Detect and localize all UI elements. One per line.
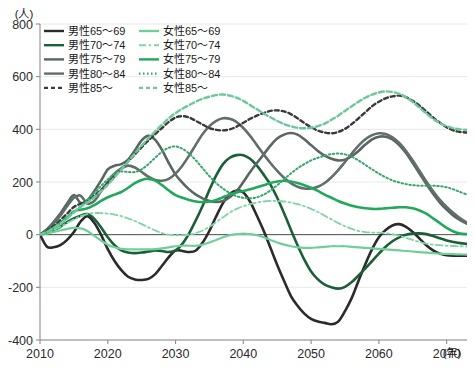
legend-label: 女性85〜 — [163, 81, 208, 94]
y-tick-label: -400 — [8, 334, 33, 348]
legend-label: 男性85〜 — [68, 81, 113, 94]
y-tick-label: 600 — [12, 70, 33, 84]
x-tick-label: 2020 — [94, 347, 122, 361]
y-tick-label: -200 — [8, 281, 33, 295]
x-axis-unit-label: (年) — [443, 346, 462, 359]
line-chart: -400-2000200400600800 201020202030204020… — [0, 0, 475, 371]
x-tick-label: 2050 — [297, 347, 325, 361]
legend-label: 女性75〜79 — [163, 52, 220, 65]
x-tick-label: 2040 — [229, 347, 257, 361]
x-tick-label: 2030 — [162, 347, 190, 361]
legend-label: 男性65〜69 — [68, 24, 125, 37]
legend-label: 女性80〜84 — [163, 67, 220, 80]
chart-canvas: -400-2000200400600800 201020202030204020… — [0, 0, 475, 371]
legend-label: 女性70〜74 — [163, 38, 220, 51]
legend-label: 男性75〜79 — [68, 52, 125, 65]
legend-label: 女性65〜69 — [163, 24, 220, 37]
y-axis-unit-label: (人) — [15, 8, 34, 20]
legend-label: 男性80〜84 — [68, 67, 125, 80]
y-tick-label: 200 — [12, 176, 33, 190]
legend-label: 男性70〜74 — [68, 38, 125, 51]
x-tick-label: 2060 — [365, 347, 393, 361]
x-tick-label: 2010 — [26, 347, 54, 361]
y-tick-label: 0 — [26, 228, 33, 242]
y-tick-label: 400 — [12, 123, 33, 137]
